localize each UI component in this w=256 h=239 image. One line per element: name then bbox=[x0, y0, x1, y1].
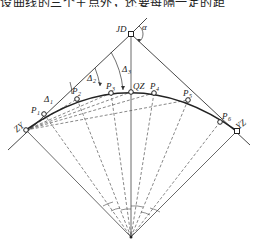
delta2-label: Δ bbox=[86, 73, 92, 83]
center-angle-arcs bbox=[103, 202, 160, 215]
delta1-label: Δ bbox=[43, 94, 49, 104]
delta1-sub: 1 bbox=[50, 99, 53, 105]
p3-label: P bbox=[105, 81, 112, 91]
p6-sub: 6 bbox=[228, 116, 231, 122]
circular-curve bbox=[26, 93, 237, 131]
p5-label: P bbox=[182, 88, 189, 98]
p1-sub: 1 bbox=[37, 110, 40, 116]
dashed-chords bbox=[26, 92, 188, 130]
p4-sub: 4 bbox=[156, 86, 159, 92]
p3-sub: 3 bbox=[111, 86, 115, 92]
p2-point bbox=[75, 97, 80, 102]
alpha-label: α bbox=[142, 22, 147, 32]
curve-stakeout-diagram: JD α ZY YZ P 1 P 2 P 3 QZ P 4 P 5 P 6 Δ … bbox=[0, 0, 256, 239]
p1-label: P bbox=[30, 105, 37, 115]
jd-label: JD bbox=[116, 24, 127, 34]
p5-sub: 5 bbox=[189, 93, 192, 99]
p1-point bbox=[42, 112, 47, 117]
stake-points bbox=[24, 90, 223, 133]
deflection-arcs bbox=[70, 52, 123, 94]
delta3-sub: 3 bbox=[127, 69, 131, 75]
dashed-radii bbox=[44, 93, 220, 237]
center-point bbox=[130, 236, 133, 239]
p2-label: P bbox=[71, 86, 78, 96]
radius-lines bbox=[26, 34, 237, 237]
delta2-sub: 2 bbox=[93, 78, 96, 84]
delta3-label: Δ bbox=[121, 64, 127, 74]
p2-sub: 2 bbox=[78, 91, 81, 97]
p6-label: P bbox=[221, 111, 228, 121]
p4-label: P bbox=[149, 81, 156, 91]
jd-vertex-marker bbox=[129, 32, 134, 37]
qz-label: QZ bbox=[133, 81, 145, 91]
